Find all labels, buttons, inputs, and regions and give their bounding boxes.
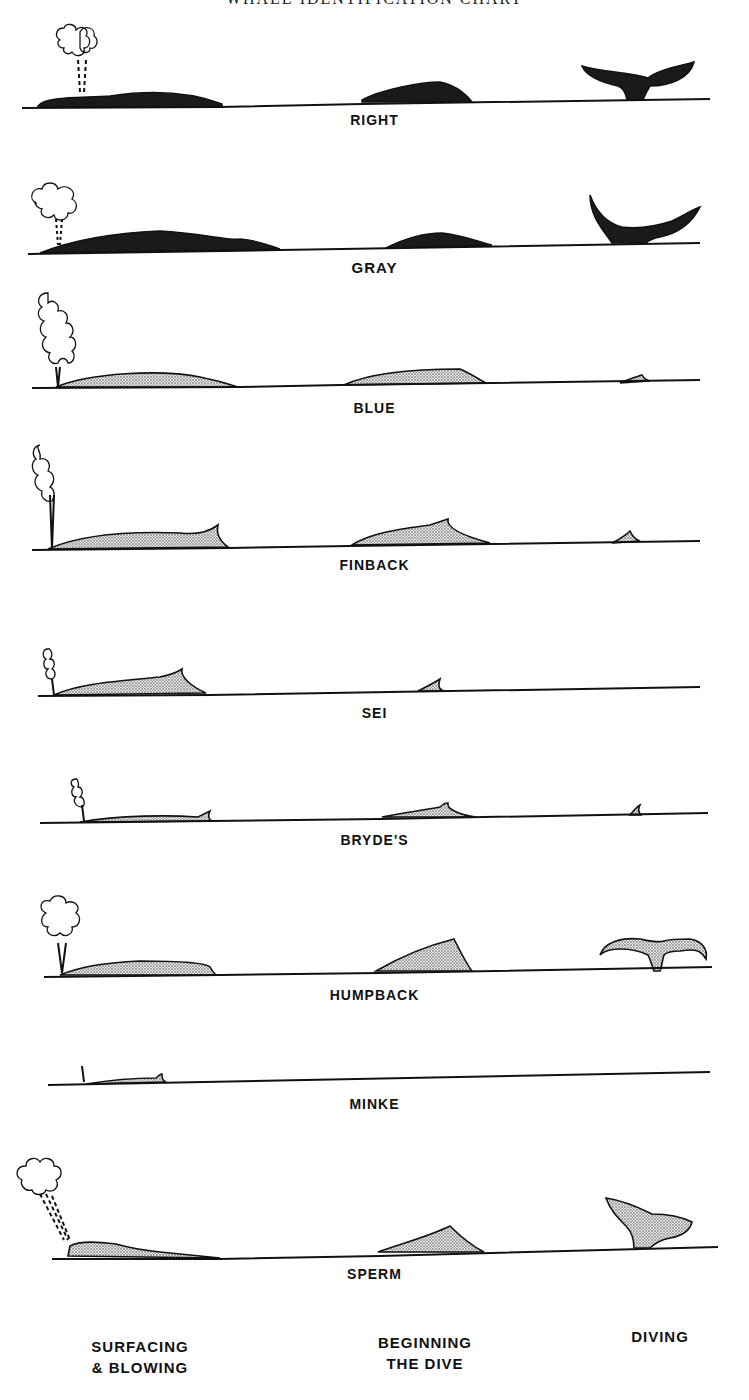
whale-row-sperm: SPERM <box>0 1140 749 1290</box>
surfacing-silhouette <box>56 373 238 387</box>
brydes-whale-illustration <box>0 765 749 830</box>
blow-icon <box>32 445 54 501</box>
blow-icon <box>17 1159 61 1195</box>
surfacing-silhouette <box>60 961 216 975</box>
whale-name-label: BRYDE'S <box>0 832 749 848</box>
diving-fluke-icon <box>590 195 700 243</box>
surfacing-silhouette <box>68 1242 220 1258</box>
phase-beginning-dive-label: BEGINNING THE DIVE <box>355 1332 495 1374</box>
blow-icon <box>57 24 97 55</box>
blow-icon <box>82 1066 84 1082</box>
whale-row-finback: FINBACK <box>0 435 749 585</box>
whale-name-label: FINBACK <box>0 557 749 573</box>
beginning-dive-silhouette <box>362 82 472 102</box>
blow-icon <box>71 779 84 807</box>
blow-icon <box>32 183 77 220</box>
diving-fluke-icon <box>582 62 694 100</box>
whale-row-humpback: HUMPBACK <box>0 893 749 1008</box>
beginning-dive-silhouette <box>418 679 444 691</box>
whale-row-minke: MINKE <box>0 1060 749 1120</box>
beginning-dive-silhouette <box>376 939 472 971</box>
blue-whale-illustration <box>0 283 749 395</box>
sperm-whale-illustration <box>0 1140 749 1260</box>
humpback-whale-illustration <box>0 893 749 983</box>
surfacing-silhouette <box>54 669 206 695</box>
whale-name-label: GRAY <box>0 259 749 276</box>
whale-row-blue: BLUE <box>0 283 749 418</box>
chart-title: WHALE IDENTIFICATION CHART <box>0 0 749 8</box>
whale-row-gray: GRAY <box>0 175 749 285</box>
beginning-dive-silhouette <box>382 803 476 817</box>
gray-whale-illustration <box>0 175 749 255</box>
right-whale-illustration <box>0 20 749 110</box>
whale-name-label: MINKE <box>0 1096 749 1112</box>
beginning-dive-silhouette <box>378 1226 484 1252</box>
minke-whale-illustration <box>0 1060 749 1090</box>
blow-icon <box>38 293 75 363</box>
whale-name-label: BLUE <box>0 400 749 416</box>
sei-whale-illustration <box>0 625 749 700</box>
surfacing-silhouette <box>48 525 228 549</box>
blow-icon <box>41 896 79 936</box>
beginning-dive-silhouette <box>352 519 490 545</box>
whale-row-sei: SEI <box>0 625 749 725</box>
surfacing-silhouette <box>38 93 222 107</box>
diving-fluke-icon <box>600 939 706 971</box>
whale-name-label: SPERM <box>0 1266 749 1282</box>
whale-name-label: HUMPBACK <box>0 987 749 1003</box>
whale-name-label: RIGHT <box>0 112 749 128</box>
phase-surfacing-label: SURFACING & BLOWING <box>70 1336 210 1378</box>
whale-name-label: SEI <box>0 705 749 721</box>
whale-row-brydes: BRYDE'S <box>0 765 749 860</box>
finback-whale-illustration <box>0 435 749 555</box>
diving-fluke-icon <box>606 1198 692 1248</box>
blow-icon <box>43 649 55 679</box>
phase-diving-label: DIVING <box>605 1326 715 1347</box>
whale-row-right: RIGHT <box>0 20 749 140</box>
